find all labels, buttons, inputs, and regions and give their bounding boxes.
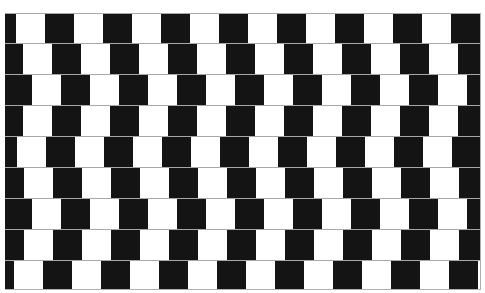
dark-tile [168,44,197,74]
dark-tile [119,199,148,229]
dark-tile [235,199,264,229]
dark-tile [409,199,438,229]
tile-row-5 [5,136,480,167]
dark-tile [393,14,422,44]
tile-row-6 [5,167,480,198]
dark-tile [226,106,255,136]
dark-tile [458,44,480,74]
dark-tile [335,14,364,44]
dark-tile [226,44,255,74]
dark-tile [52,44,81,74]
dark-tile [284,44,313,74]
dark-tile [101,261,130,289]
dark-tile [5,106,23,136]
dark-tile [111,230,140,260]
dark-tile [351,199,380,229]
dark-tile [111,168,140,198]
dark-tile [119,75,148,105]
dark-tile [110,106,139,136]
dark-tile [343,168,372,198]
dark-tile [5,168,24,198]
dark-tile [351,75,380,105]
dark-tile [451,14,480,44]
dark-tile [275,261,304,289]
dark-tile [53,168,82,198]
dark-tile [401,168,430,198]
dark-tile [5,199,32,229]
dark-tile [342,44,371,74]
dark-tile [400,106,429,136]
dark-tile [400,44,429,74]
dark-tile [110,44,139,74]
dark-tile [5,44,23,74]
dark-tile [177,199,206,229]
dark-tile [5,137,17,167]
dark-tile [169,230,198,260]
dark-tile [61,75,90,105]
tile-row-2 [5,43,480,74]
dark-tile [61,199,90,229]
dark-tile [285,230,314,260]
tile-row-3 [5,74,480,105]
dark-tile [45,14,74,44]
dark-tile [46,137,75,167]
dark-tile [5,261,14,289]
dark-tile [285,168,314,198]
dark-tile [449,261,478,289]
dark-tile [159,261,188,289]
dark-tile [293,199,322,229]
dark-tile [459,230,480,260]
dark-tile [467,75,480,105]
dark-tile [293,75,322,105]
dark-tile [52,106,81,136]
dark-tile [284,106,313,136]
dark-tile [169,168,198,198]
cafe-wall-illusion [5,13,481,290]
dark-tile [343,230,372,260]
dark-tile [394,137,423,167]
dark-tile [391,261,420,289]
dark-tile [217,261,246,289]
tile-row-4 [5,105,480,136]
dark-tile [103,14,132,44]
tile-row-9 [5,260,480,289]
dark-tile [401,230,430,260]
dark-tile [5,75,32,105]
dark-tile [43,261,72,289]
dark-tile [161,14,190,44]
dark-tile [336,137,365,167]
dark-tile [235,75,264,105]
dark-tile [5,14,16,44]
tile-row-8 [5,229,480,260]
dark-tile [458,106,480,136]
dark-tile [459,168,480,198]
dark-tile [277,14,306,44]
dark-tile [177,75,206,105]
dark-tile [333,261,362,289]
dark-tile [162,137,191,167]
dark-tile [342,106,371,136]
dark-tile [219,14,248,44]
dark-tile [5,230,24,260]
dark-tile [227,168,256,198]
dark-tile [220,137,249,167]
dark-tile [467,199,480,229]
tile-row-1 [5,13,480,44]
dark-tile [452,137,480,167]
dark-tile [168,106,197,136]
dark-tile [53,230,82,260]
dark-tile [409,75,438,105]
dark-tile [278,137,307,167]
tile-row-7 [5,198,480,229]
dark-tile [227,230,256,260]
dark-tile [104,137,133,167]
